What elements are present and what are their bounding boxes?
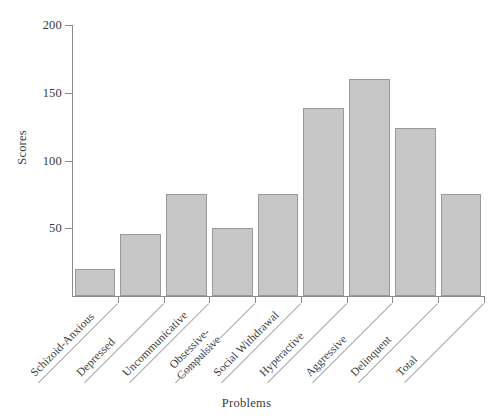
x-category-label: Total (394, 353, 420, 379)
bar (303, 108, 344, 296)
bar-chart: Scores 50100150200 Schizoid-AnxiousDepre… (0, 0, 493, 419)
y-tick-label: 200 (28, 18, 62, 33)
y-tick-mark (65, 161, 73, 162)
y-tick-label: 100 (28, 153, 62, 168)
bar (441, 194, 482, 296)
x-tick-mark (392, 296, 393, 303)
y-tick-label: 50 (28, 221, 62, 236)
bar (395, 128, 436, 296)
y-tick-mark (65, 228, 73, 229)
x-axis-title: Problems (0, 396, 493, 411)
x-tick-mark (255, 296, 256, 303)
x-tick-mark (484, 296, 485, 303)
y-tick-mark (65, 93, 73, 94)
x-axis-line (72, 296, 484, 297)
x-tick-mark (347, 296, 348, 303)
y-tick-label: 150 (28, 85, 62, 100)
x-category-leader-line (404, 303, 484, 383)
y-axis-title: Scores (15, 98, 30, 198)
bar (75, 269, 116, 296)
x-category-label: Hyperactive (257, 329, 306, 378)
bar (166, 194, 207, 296)
y-tick-mark (65, 25, 73, 26)
x-tick-mark (301, 296, 302, 303)
x-tick-mark (164, 296, 165, 303)
bar (212, 228, 253, 296)
bar (349, 79, 390, 296)
x-tick-mark (438, 296, 439, 303)
x-tick-mark (209, 296, 210, 303)
x-tick-mark (118, 296, 119, 303)
bar (120, 234, 161, 296)
bar (258, 194, 299, 296)
